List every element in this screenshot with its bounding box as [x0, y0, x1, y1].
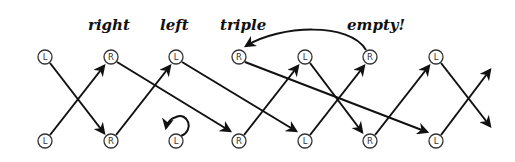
node-label: L [174, 52, 179, 62]
label-triple: triple [220, 16, 266, 34]
node-top-2: L [169, 50, 183, 64]
label-empty: empty! [347, 16, 405, 34]
node-label: L [303, 136, 308, 146]
edges [50, 30, 490, 136]
edge-arrow [310, 63, 362, 132]
self-loop-arrow [166, 116, 189, 136]
edge-arrow [375, 66, 429, 135]
node-top-5: R [363, 50, 377, 64]
node-top-0: L [38, 50, 52, 64]
edge-arrow [50, 63, 104, 133]
edge-arrow [116, 66, 170, 135]
node-label: L [303, 52, 308, 62]
node-label: R [367, 136, 373, 146]
node-label: L [434, 52, 439, 62]
edge-arrow [182, 62, 296, 131]
node-bottom-6: L [429, 134, 443, 148]
edge-arrow [117, 62, 230, 131]
lr-pairing-diagram: right left triple empty! [0, 0, 515, 162]
node-label: R [367, 52, 373, 62]
edge-arrow [50, 66, 104, 135]
node-bottom-0: L [38, 134, 52, 148]
node-label: L [434, 136, 439, 146]
edge-arrow-out [441, 70, 490, 135]
node-label: R [108, 52, 114, 62]
node-label: L [43, 136, 48, 146]
annotation-labels: right left triple empty! [88, 16, 405, 34]
top-row-nodes: L R L R L R L [38, 50, 443, 64]
diagram-canvas: right left triple empty! [0, 0, 515, 162]
edge-arrow [244, 66, 298, 135]
node-top-1: R [104, 50, 118, 64]
node-bottom-4: L [298, 134, 312, 148]
edge-arrow-out [441, 63, 490, 126]
node-label: R [108, 136, 114, 146]
node-bottom-2: L [169, 134, 183, 148]
node-bottom-5: R [363, 134, 377, 148]
node-label: L [174, 136, 179, 146]
label-left: left [160, 16, 189, 34]
node-label: R [236, 52, 242, 62]
bottom-row-nodes: L R L R L R L [38, 134, 443, 148]
node-label: L [43, 52, 48, 62]
node-top-4: L [298, 50, 312, 64]
node-top-3: R [232, 50, 246, 64]
node-top-6: L [429, 50, 443, 64]
node-bottom-1: R [104, 134, 118, 148]
label-right: right [88, 16, 130, 34]
node-bottom-3: R [232, 134, 246, 148]
node-label: R [236, 136, 242, 146]
